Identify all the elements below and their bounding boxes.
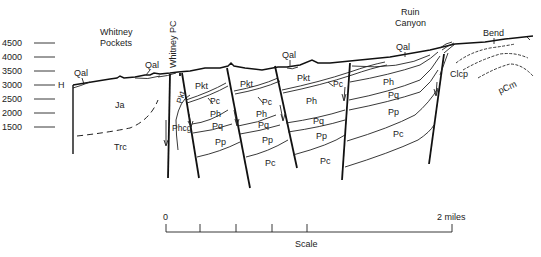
place-bend: Bend [483,28,504,38]
unit-label-clcp: Clcp [450,69,468,79]
unit-label-qal-2: Qal [145,60,159,70]
elevation-marker-h: H [58,80,65,90]
elevation-tick-3000: 3000 [2,80,22,90]
unit-label-pq-2: Pq [212,121,223,131]
unit-label-pp-5: Pp [388,107,399,117]
place-ruin-canyon-line1: Ruin [401,7,420,17]
unit-label-pp-4: Pp [316,131,327,141]
elevation-tick-3500: 3500 [2,66,22,76]
unit-label-pc-3b: Pc [265,158,276,168]
elevation-tick-2500: 2500 [2,94,22,104]
elevation-tick-1500: 1500 [2,122,22,132]
unit-label-qal-3: Qal [282,50,296,60]
place-ruin-canyon-line2: Canyon [395,18,426,28]
unit-label-pc-2: Pc [210,96,221,106]
unit-label-pc-4: Pc [333,79,344,89]
elevation-axis: 4500 4000 3500 3000 H 2500 2000 1500 [2,38,65,132]
unit-label-phcg: Phcg [172,123,192,133]
fault-ruin-canyon-east [429,53,448,164]
fault-ruin-canyon-west [342,63,350,180]
fault-whitney-pc: Pkt Phcg [164,73,199,178]
unit-label-pkt-3: Pkt [240,79,254,89]
unit-label-pc-5: Pc [393,129,404,139]
scale-title: Scale [295,239,318,249]
unit-label-pp-2: Pp [215,137,226,147]
unit-label-pc-3: Pc [262,97,273,107]
scale-end-label: 2 miles [437,212,466,222]
unit-label-pkt-4: Pkt [297,73,311,83]
unit-label-pkt-2: Pkt [195,81,209,91]
unit-label-ph-4: Ph [306,96,317,106]
block-bend: Clcp pCm [450,37,533,96]
unit-label-ph-2: Ph [210,109,221,119]
unit-label-ph-5: Ph [383,77,394,87]
scale-start-label: 0 [163,212,168,222]
unit-label-pp-3: Pp [262,135,273,145]
geologic-cross-section: 4500 4000 3500 3000 H 2500 2000 1500 Whi… [0,0,541,257]
block-whitney-pockets: Ja Trc [73,85,158,154]
place-whitney-pc: Whitney PC [168,20,178,68]
place-whitney-pockets-line1: Whitney [100,27,133,37]
unit-label-pq-4: Pq [313,116,324,126]
elevation-tick-4000: 4000 [2,52,22,62]
unit-label-qal-4: Qal [396,42,410,52]
unit-label-trc: Trc [114,142,127,152]
unit-label-ja: Ja [115,100,125,110]
unit-label-qal-1: Qal [74,68,88,78]
place-whitney-pockets-line2: Pockets [100,38,133,48]
unit-label-pc-4b: Pc [320,156,331,166]
unit-label-ph-3: Ph [256,109,267,119]
unit-label-pq-3: Pq [258,120,269,130]
unit-label-pcm: pCm [497,79,518,96]
elevation-tick-4500: 4500 [2,38,22,48]
unit-label-pq-5: Pq [388,90,399,100]
scale-bar: 0 2 miles Scale [163,212,466,249]
elevation-tick-2000: 2000 [2,108,22,118]
